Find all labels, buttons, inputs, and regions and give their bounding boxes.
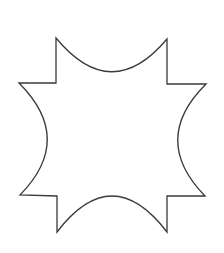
drawing-canvas	[0, 0, 224, 253]
six-pointed-star-figure	[0, 0, 224, 253]
star-outline-path	[19, 38, 206, 232]
